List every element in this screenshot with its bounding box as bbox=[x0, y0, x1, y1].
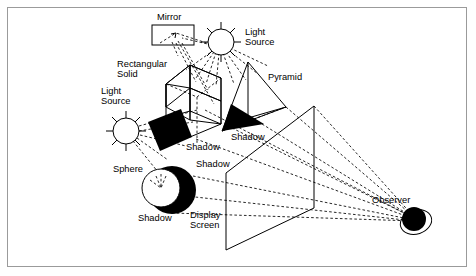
rectangular-solid-label-line1: Rectangular bbox=[117, 59, 167, 69]
shadow-mid-label: Shadow bbox=[196, 159, 230, 169]
light-source-top-label-line1: Light bbox=[245, 27, 266, 37]
light-source-top-icon bbox=[201, 22, 241, 62]
observer-label: Observer bbox=[372, 195, 410, 205]
shadow-cube-label: Shadow bbox=[186, 142, 220, 152]
light-source-top-label-line2: Source bbox=[245, 37, 274, 47]
display-screen-label-line2: Screen bbox=[190, 220, 219, 230]
light-source-left-label-line2: Source bbox=[101, 96, 130, 106]
rectangular-solid-label-line2: Solid bbox=[117, 69, 138, 79]
sphere-label: Sphere bbox=[113, 164, 143, 174]
mirror-label: Mirror bbox=[157, 12, 181, 22]
pyramid-label: Pyramid bbox=[268, 72, 302, 82]
diagram-canvas: Mirror Light Source bbox=[0, 0, 476, 276]
sphere-shape bbox=[142, 166, 196, 214]
mirror-shape bbox=[152, 25, 194, 45]
shadow-pyramid-label: Shadow bbox=[231, 132, 265, 142]
display-screen-label-line1: Display bbox=[190, 210, 221, 220]
shadow-sphere-label: Shadow bbox=[138, 213, 172, 223]
light-source-left-label-line1: Light bbox=[101, 86, 122, 96]
diagram-artwork: Mirror Light Source bbox=[0, 0, 476, 276]
